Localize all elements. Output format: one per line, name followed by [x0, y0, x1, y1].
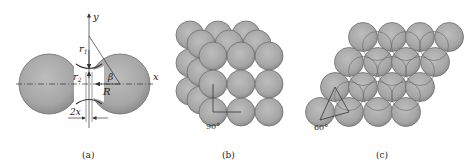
angle-label-60: 60° [314, 123, 328, 132]
caption-b: (b) [222, 150, 235, 160]
y-axis-label: y [92, 11, 99, 22]
x-axis-label: x [153, 71, 159, 82]
caption-a: (a) [82, 150, 94, 160]
neck-width-label: 2x [69, 107, 81, 117]
panel-a-neck-model: y x r1 r2 β R 2x (a) [0, 0, 160, 168]
panel-c-hex-packing: 60° (c) [300, 0, 475, 168]
r1-label: r1 [79, 43, 88, 55]
angle-label-90: 90° [206, 122, 220, 131]
panel-b-cubic-packing: 90° (b) [160, 0, 300, 168]
caption-c: (c) [376, 150, 388, 160]
sphere-layers [176, 21, 283, 126]
two-sphere-diagram: y x r1 r2 β R 2x (a) [0, 0, 160, 168]
hex-packing-diagram: 60° (c) [300, 0, 475, 168]
beta-label: β [107, 72, 113, 82]
sphere-layers [306, 23, 464, 127]
cubic-packing-diagram: 90° (b) [160, 0, 300, 168]
R-label: R [102, 86, 111, 97]
